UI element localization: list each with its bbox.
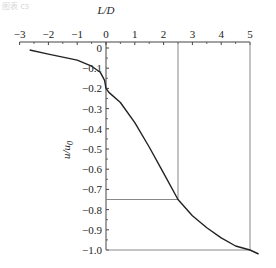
y-tick-label: −0.5 <box>82 143 102 155</box>
y-tick-label: −0.9 <box>82 224 102 236</box>
y-tick-label: −0.4 <box>82 123 102 135</box>
line-chart: −3−2−1012345L/D0−0.1−0.2−0.3−0.4−0.5−0.6… <box>0 0 276 268</box>
y-tick-label: 0 <box>97 42 103 54</box>
y-tick-label: −0.3 <box>82 103 102 115</box>
x-tick-label: −2 <box>43 28 55 40</box>
y-tick-label: −0.6 <box>82 163 102 175</box>
x-axis-title: L/D <box>96 4 114 16</box>
y-tick-label: −0.7 <box>82 183 102 195</box>
y-tick-label: −0.2 <box>82 82 102 94</box>
x-tick-label: −3 <box>14 28 26 40</box>
x-tick-label: 4 <box>218 28 224 40</box>
x-tick-label: 3 <box>190 28 196 40</box>
x-tick-label: −1 <box>71 28 83 40</box>
y-tick-label: −0.8 <box>82 204 102 216</box>
x-tick-label: 0 <box>103 28 109 40</box>
x-tick-label: 5 <box>247 28 253 40</box>
y-axis-title: u/u0 <box>60 141 75 159</box>
y-tick-label: −1.0 <box>82 244 102 256</box>
x-tick-label: 2 <box>161 28 167 40</box>
x-tick-label: 1 <box>132 28 138 40</box>
